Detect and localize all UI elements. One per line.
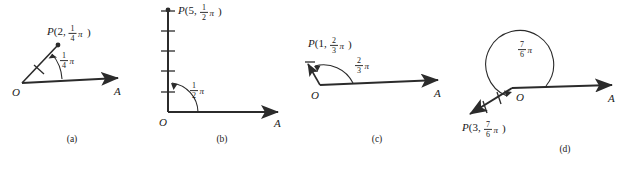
panel-d: 7 6 π P(3, 7 6 π ) O A (d): [460, 0, 634, 169]
svg-text:P(5,: P(5,: [177, 4, 197, 17]
caption-d: (d): [559, 144, 570, 155]
origin-label-b: O: [159, 116, 167, 128]
caption-b: (b): [216, 134, 227, 145]
angle-label-d: 7 6 π: [518, 40, 533, 59]
angle-num-c: 2: [357, 56, 361, 65]
angle-pi-d: π: [528, 45, 533, 55]
polar-axis-d: [512, 85, 612, 88]
angle-num-d: 7: [520, 40, 524, 49]
angle-pi-c: π: [365, 61, 370, 71]
angle-den-b: 2: [192, 91, 196, 100]
angle-arc-arrowhead-b: [171, 83, 178, 90]
point-label-a: P(2, 1 4 π ): [46, 24, 91, 43]
caption-a: (a): [67, 134, 78, 145]
angle-den-c: 3: [357, 66, 361, 75]
svg-text:): ): [348, 38, 352, 51]
axis-label-b: A: [273, 117, 281, 129]
point-label-d: P(3, 7 6 π ): [461, 120, 506, 139]
panel-c: P(1, 2 3 π ) 2 3 π O A (c): [295, 0, 460, 169]
point-angle-num-c: 2: [332, 36, 336, 45]
svg-text:): ): [502, 122, 506, 135]
point-p-dot-a: [56, 43, 61, 48]
point-angle-pi-c: π: [340, 41, 345, 51]
angle-pi-b: π: [200, 86, 205, 96]
caption-c: (c): [372, 134, 383, 145]
polar-axis-c: [320, 80, 438, 85]
svg-text:): ): [87, 26, 91, 39]
panel-b: P(5, 1 2 π ) 1 2 π O A (b): [150, 0, 295, 169]
angle-den-a: 4: [62, 61, 66, 70]
origin-label-a: O: [12, 86, 20, 98]
axis-label-c: A: [433, 87, 441, 99]
angle-label-b: 1 2 π: [190, 81, 205, 100]
angle-pi-a: π: [70, 56, 75, 66]
point-angle-num-a: 1: [71, 24, 75, 33]
angle-num-b: 1: [192, 81, 196, 90]
point-angle-den-c: 3: [332, 46, 336, 55]
point-angle-num-d: 7: [486, 120, 490, 129]
panel-a: P(2, 1 4 π ) 1 4 π O A (a): [0, 0, 150, 169]
point-angle-pi-b: π: [210, 8, 215, 18]
angle-arc-arrowhead-d: [504, 91, 512, 98]
polar-axis-a: [22, 78, 118, 83]
svg-text:): ): [218, 5, 222, 18]
svg-text:P(2,: P(2,: [46, 25, 66, 38]
point-angle-num-b: 1: [202, 3, 206, 12]
terminal-ray-a: [22, 45, 58, 83]
angle-arc-c: [315, 65, 353, 83]
point-angle-den-b: 2: [202, 13, 206, 22]
point-angle-den-d: 6: [486, 130, 490, 139]
svg-text:P(3,: P(3,: [461, 121, 481, 134]
axis-label-a: A: [113, 85, 121, 97]
point-label-c: P(1, 2 3 π ): [307, 36, 352, 55]
point-label-b: P(5, 1 2 π ): [177, 3, 222, 22]
angle-num-a: 1: [62, 51, 66, 60]
point-angle-den-a: 4: [71, 34, 75, 43]
point-angle-pi-a: π: [78, 29, 83, 39]
origin-label-d: O: [516, 91, 524, 103]
angle-label-a: 1 4 π: [60, 51, 75, 70]
point-p-dot-b: [166, 8, 171, 13]
angle-arc-arrowhead-c: [314, 66, 321, 72]
angle-den-d: 6: [520, 50, 524, 59]
svg-text:P(1,: P(1,: [307, 37, 327, 50]
axis-label-d: A: [607, 92, 615, 104]
polar-figure: P(2, 1 4 π ) 1 4 π O A (a): [0, 0, 634, 169]
origin-label-c: O: [311, 89, 319, 101]
angle-label-c: 2 3 π: [355, 56, 370, 75]
point-angle-pi-d: π: [494, 125, 499, 135]
